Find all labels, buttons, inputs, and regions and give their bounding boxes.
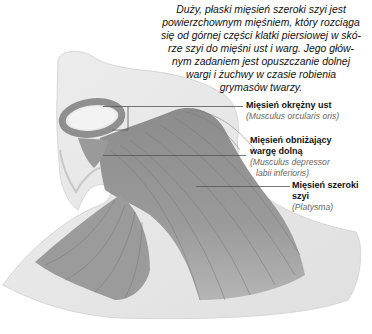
intro-line: Duży, płaski mięsień szeroki szyi jest [176, 4, 346, 15]
intro-line: wargi i żuchwy w czasie robienia [186, 69, 336, 80]
label-name: wargę dolną [250, 146, 370, 157]
intro-line: rze szyi do mięśni ust i warg. Jego głów… [168, 43, 354, 54]
label-name: szyi [292, 191, 372, 202]
label-depressor-labii: Mięsień obniżający wargę dolną (Musculus… [250, 135, 370, 179]
label-orbicularis-oris: Mięsień okrężny ust (Musculus orcularis … [246, 100, 371, 122]
label-platysma: Mięsień szeroki szyi (Platysma) [292, 180, 372, 213]
label-latin: (Musculus orcularis oris) [246, 111, 371, 122]
label-latin: labii inferioris) [250, 168, 370, 179]
intro-line: nym zadaniem jest opuszczanie dolnej [172, 56, 350, 67]
intro-line: grymasów twarzy. [220, 82, 302, 93]
intro-line: się od górnej części klatki piersiowej w… [161, 30, 361, 41]
label-name: Mięsień szeroki [292, 180, 372, 191]
intro-line: powierzchownym mięśniem, który rozciąga [162, 17, 360, 28]
label-latin: (Musculus depressor [250, 157, 370, 168]
intro-text: Duży, płaski mięsień szeroki szyi jest p… [152, 3, 370, 94]
label-name: Mięsień okrężny ust [246, 100, 371, 111]
label-latin: (Platysma) [292, 202, 372, 213]
label-name: Mięsień obniżający [250, 135, 370, 146]
